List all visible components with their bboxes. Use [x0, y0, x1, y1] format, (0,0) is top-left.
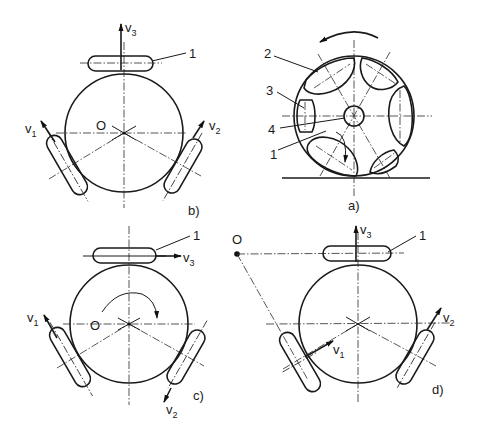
velocity-v2-arrow — [164, 388, 171, 402]
svg-text:v1: v1 — [25, 121, 37, 139]
velocity-v2-arrow — [193, 121, 204, 138]
label-center-O: O — [96, 118, 106, 133]
leader-1 — [152, 53, 186, 61]
roller-upper-right — [360, 58, 398, 89]
leader-1 — [156, 236, 190, 250]
svg-text:v3: v3 — [183, 250, 195, 268]
caption-a: a) — [348, 198, 360, 213]
label-center-O: O — [90, 318, 100, 333]
panel-b: v3 1 O v1 v2 b) — [25, 20, 221, 218]
wheel-left — [40, 126, 95, 205]
svg-text:v3: v3 — [125, 20, 137, 38]
rotation-arrow — [102, 293, 157, 318]
center-point — [123, 132, 126, 135]
velocity-v2-arrow — [427, 308, 441, 330]
label-instant-center-O: O — [232, 232, 242, 247]
roller-rotation-arrow — [336, 132, 346, 162]
caption-d: d) — [432, 382, 444, 397]
svg-text:v2: v2 — [166, 402, 178, 420]
svg-text:v2: v2 — [209, 118, 221, 136]
label-part-1: 1 — [419, 228, 426, 243]
omniwheel-figure: v3 1 O v1 v2 b) — [0, 0, 478, 433]
label-part-1: 1 — [270, 147, 277, 162]
label-part-3: 3 — [266, 83, 273, 98]
label-part-1: 1 — [189, 46, 196, 61]
rotation-arrow — [320, 32, 378, 42]
panel-c: 1 v3 O v1 v2 c) — [27, 226, 214, 420]
line-to-left-wheel — [237, 254, 308, 380]
label-part-1: 1 — [193, 228, 200, 243]
caption-b: b) — [188, 203, 200, 218]
velocity-v1-arrow — [305, 341, 333, 357]
label-part-4: 4 — [268, 122, 275, 137]
svg-text:v1: v1 — [27, 310, 39, 328]
velocity-v1-arrow — [44, 315, 57, 338]
svg-text:v2: v2 — [443, 310, 455, 328]
panel-a: 2 3 4 1 a) — [264, 32, 432, 213]
leader-1 — [388, 236, 416, 252]
caption-c: c) — [193, 388, 204, 403]
roller-upper-left — [304, 58, 355, 94]
panel-d: O 1 v3 v1 v2 d) — [232, 222, 455, 402]
line-to-top-wheel — [237, 253, 404, 254]
label-part-2: 2 — [264, 46, 271, 61]
svg-text:v1: v1 — [333, 342, 345, 360]
svg-text:v3: v3 — [360, 222, 372, 240]
